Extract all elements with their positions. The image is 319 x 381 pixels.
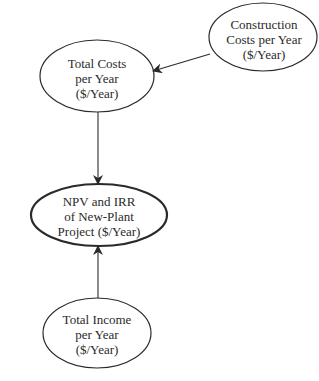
edge-construction-to-total-costs (153, 54, 210, 71)
label-line: of New-Plant (58, 209, 141, 224)
label-total-costs: Total Costs per Year ($/Year) (68, 56, 127, 101)
label-line: Total Income (63, 312, 132, 327)
label-line: ($/Year) (226, 47, 301, 62)
label-line: Total Costs (68, 56, 127, 71)
label-line: Project ($/Year) (58, 224, 141, 239)
label-line: per Year (68, 71, 127, 86)
label-line: Construction (226, 17, 301, 32)
label-line: ($/Year) (63, 342, 132, 357)
label-total-income: Total Income per Year ($/Year) (63, 312, 132, 357)
label-line: ($/Year) (68, 86, 127, 101)
label-construction-costs: Construction Costs per Year ($/Year) (226, 17, 301, 62)
label-line: NPV and IRR (58, 194, 141, 209)
label-npv-irr: NPV and IRR of New-Plant Project ($/Year… (58, 194, 141, 239)
label-line: per Year (63, 327, 132, 342)
label-line: Costs per Year (226, 32, 301, 47)
